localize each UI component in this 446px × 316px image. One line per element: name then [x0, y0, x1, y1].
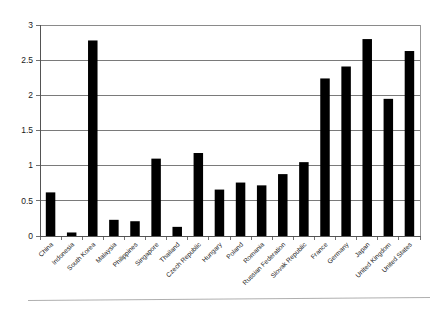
x-tick-label: Germany — [326, 240, 351, 265]
footer-divider — [28, 298, 430, 301]
bar — [384, 99, 394, 236]
chart-canvas: 00.511.522.53 ChinaIndonesiaSouth KoreaM… — [0, 0, 446, 316]
y-tick-label: 0.5 — [21, 196, 33, 206]
bar — [405, 51, 415, 236]
bar — [236, 183, 246, 236]
y-tick-label: 2.5 — [21, 55, 33, 65]
bar — [194, 153, 204, 236]
x-tick-label: China — [37, 241, 54, 258]
bar — [46, 192, 56, 236]
x-tick-label: Singapore — [134, 241, 161, 268]
x-tick-label: France — [309, 241, 329, 261]
bar — [109, 220, 119, 236]
x-tick-label: Hungary — [201, 240, 225, 264]
bar — [278, 174, 288, 236]
x-axis-labels: ChinaIndonesiaSouth KoreaMalaysiaPhilipp… — [37, 240, 414, 286]
bar — [172, 227, 182, 236]
bar — [341, 67, 351, 237]
x-axis-ticks — [40, 236, 420, 240]
y-tick-label: 3 — [28, 20, 33, 30]
y-tick-label: 0 — [28, 231, 33, 241]
bar — [320, 78, 330, 236]
y-axis-ticks: 00.511.522.53 — [21, 20, 40, 241]
bar — [130, 221, 140, 236]
y-tick-label: 2 — [28, 90, 33, 100]
bar — [257, 185, 267, 236]
bar — [299, 162, 309, 236]
x-tick-label: Japan — [353, 241, 372, 260]
y-tick-label: 1 — [28, 160, 33, 170]
bar — [88, 40, 98, 236]
bar — [362, 39, 372, 236]
bar — [67, 232, 77, 236]
x-tick-label: Poland — [225, 241, 245, 261]
bar — [215, 190, 225, 236]
y-tick-label: 1.5 — [21, 125, 33, 135]
bar-chart: 00.511.522.53 ChinaIndonesiaSouth KoreaM… — [0, 0, 446, 316]
bar — [151, 159, 161, 236]
